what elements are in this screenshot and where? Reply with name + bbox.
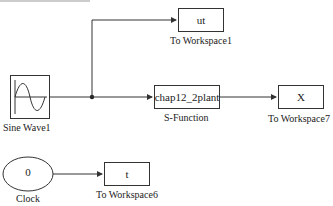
sine-wave-label: Sine Wave1	[3, 122, 51, 133]
clock-label: Clock	[16, 193, 40, 204]
sfunction-name: chap12_2plant	[155, 91, 220, 103]
sine-wave-icon	[12, 77, 48, 117]
to-workspace1-block[interactable]: ut	[178, 8, 224, 32]
ut-text: ut	[197, 14, 206, 26]
sfunction-label: S-Function	[164, 112, 208, 123]
to-workspace6-block[interactable]: t	[104, 162, 150, 186]
sine-wave-block[interactable]	[10, 75, 50, 119]
clock-block[interactable]: 0	[3, 166, 53, 178]
to-workspace7-label: To Workspace7	[268, 113, 330, 124]
to-workspace1-label: To Workspace1	[170, 35, 232, 46]
t-text: t	[125, 168, 128, 180]
x-text: X	[297, 91, 305, 103]
to-workspace7-block[interactable]: X	[278, 85, 324, 109]
sfunction-block[interactable]: chap12_2plant	[154, 85, 220, 109]
clock-value: 0	[25, 166, 31, 178]
to-workspace6-label: To Workspace6	[96, 189, 158, 200]
